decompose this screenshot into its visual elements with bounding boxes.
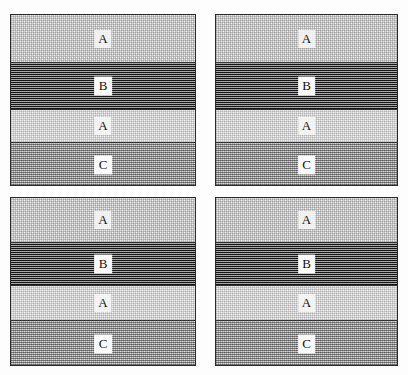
band-b: B <box>216 63 397 110</box>
band-label-c: C <box>298 335 315 353</box>
band-label-a-lower: A <box>298 117 315 135</box>
band-c: C <box>11 321 195 366</box>
band-label-a-lower: A <box>94 117 111 135</box>
panel-top-right[interactable]: A B A C <box>215 14 398 186</box>
band-label-c: C <box>95 156 112 174</box>
band-c: C <box>216 321 397 366</box>
panel-bottom-left[interactable]: A B A C <box>10 197 196 366</box>
band-c: C <box>216 143 397 186</box>
band-label-a-upper: A <box>298 30 315 48</box>
band-a-lower: A <box>216 286 397 321</box>
band-a-upper: A <box>216 198 397 243</box>
band-b: B <box>11 243 195 286</box>
panel-top-left[interactable]: A B A C <box>10 14 196 186</box>
band-label-a-upper: A <box>94 211 111 229</box>
band-label-a-lower: A <box>94 294 111 312</box>
band-a-upper: A <box>11 198 195 243</box>
band-label-b: B <box>95 77 112 95</box>
band-label-b: B <box>95 255 112 273</box>
band-label-a-upper: A <box>94 30 111 48</box>
band-b: B <box>11 63 195 110</box>
band-label-c: C <box>298 156 315 174</box>
figure-container: A B A C A B A C <box>0 0 408 375</box>
band-label-a-upper: A <box>298 211 315 229</box>
band-a-lower: A <box>11 286 195 321</box>
band-a-upper: A <box>216 15 397 63</box>
band-label-a-lower: A <box>298 294 315 312</box>
panel-bottom-right[interactable]: A B A C <box>215 197 398 366</box>
band-a-lower: A <box>216 110 397 143</box>
band-label-b: B <box>298 255 315 273</box>
band-label-c: C <box>95 335 112 353</box>
band-a-upper: A <box>11 15 195 63</box>
band-label-b: B <box>298 77 315 95</box>
band-a-lower: A <box>11 110 195 143</box>
band-b: B <box>216 243 397 286</box>
band-c: C <box>11 143 195 186</box>
